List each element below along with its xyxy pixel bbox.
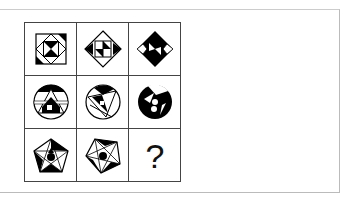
puzzle-grid: ? [24, 22, 181, 182]
question-mark: ? [146, 139, 165, 173]
black-circle-dots-figure [136, 83, 174, 121]
cell-3-3-answer: ? [129, 129, 181, 182]
cell-3-2 [77, 129, 129, 182]
pentagon-star-figure [31, 136, 71, 176]
cell-1-3 [129, 23, 181, 76]
cell-1-2 [77, 23, 129, 76]
cell-3-1 [25, 129, 77, 182]
cell-1-1 [25, 23, 77, 76]
circle-rotated-triangle-figure [84, 83, 122, 121]
rotated-pentagon-star-figure [83, 136, 123, 176]
cell-2-1 [25, 76, 77, 129]
circle-triangle-figure [32, 83, 70, 121]
cell-2-3 [129, 76, 181, 129]
square-hourglass-figure [34, 32, 68, 66]
diamond-square-figure [83, 29, 123, 69]
black-diamond-figure [135, 29, 175, 69]
cell-2-2 [77, 76, 129, 129]
